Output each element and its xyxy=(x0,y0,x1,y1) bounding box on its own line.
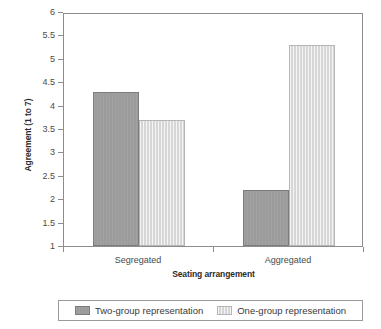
x-axis: SegregatedAggregated xyxy=(63,247,364,287)
y-axis-tick-label: 3.5 xyxy=(42,124,55,134)
legend-item-label: One-group representation xyxy=(237,305,346,316)
y-axis-tick-label: 4.5 xyxy=(42,77,55,87)
x-axis-category-label: Aggregated xyxy=(213,255,363,265)
y-axis-tick-label: 1.5 xyxy=(42,218,55,228)
y-axis-tick-label: 5 xyxy=(50,54,55,64)
bar-chart: Agreement (1 to 7) 65.554.543.532.521.51… xyxy=(0,0,381,329)
y-axis-tick-label: 3 xyxy=(50,147,55,157)
x-axis-tick xyxy=(363,247,364,252)
y-axis-tick-label: 5.5 xyxy=(42,30,55,40)
legend-item-label: Two-group representation xyxy=(95,305,203,316)
bar-aggregated-two-group xyxy=(243,190,289,246)
x-axis-tick xyxy=(213,247,214,252)
y-axis-tick-label: 1 xyxy=(50,241,55,251)
legend-swatch-icon xyxy=(217,306,232,315)
bar-aggregated-one-group xyxy=(289,45,335,246)
y-axis-tick-label: 2 xyxy=(50,194,55,204)
legend-swatch-icon xyxy=(75,306,90,315)
x-axis-category-label: Segregated xyxy=(63,255,213,265)
bar-segregated-one-group xyxy=(139,120,185,246)
y-axis-title: Agreement (1 to 7) xyxy=(23,55,33,215)
legend-item-one-group: One-group representation xyxy=(217,305,346,316)
bar-segregated-two-group xyxy=(93,92,139,246)
y-axis-tick-label: 6 xyxy=(50,7,55,17)
x-axis-title: Seating arrangement xyxy=(63,269,364,279)
legend-item-two-group: Two-group representation xyxy=(75,305,203,316)
legend: Two-group representation One-group repre… xyxy=(58,300,363,321)
y-axis-tick-label: 4 xyxy=(50,101,55,111)
y-axis-tick-label: 2.5 xyxy=(42,171,55,181)
plot-area xyxy=(63,13,363,247)
x-axis-tick xyxy=(63,247,64,252)
